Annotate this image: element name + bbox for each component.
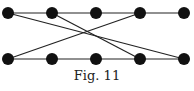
node-B1 (2, 53, 14, 65)
node-B3 (90, 53, 102, 65)
node-T2 (46, 7, 58, 19)
node-B5 (178, 53, 190, 65)
node-B4 (134, 53, 146, 65)
node-B2 (46, 53, 58, 65)
node-T3 (90, 7, 102, 19)
node-T1 (2, 7, 14, 19)
node-T5 (178, 7, 190, 19)
edge-B1-T4 (8, 13, 140, 59)
node-T4 (134, 7, 146, 19)
edge-T2-B4 (52, 13, 140, 59)
graph-diagram (0, 0, 194, 70)
figure-caption: Fig. 11 (0, 68, 194, 83)
